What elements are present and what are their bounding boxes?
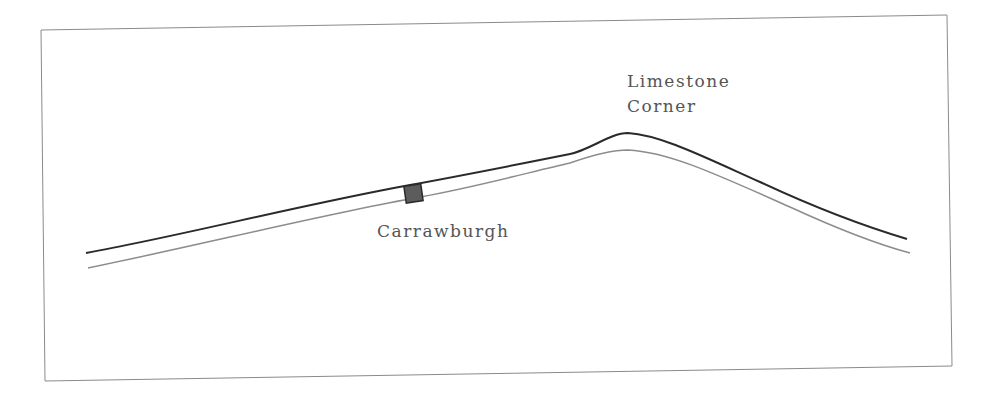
carrawburgh-fort-marker[interactable] bbox=[404, 184, 423, 203]
carrawburgh-label: Carrawburgh bbox=[377, 221, 509, 241]
map-canvas: Carrawburgh Limestone Corner bbox=[0, 0, 990, 393]
limestone-corner-label-line-2: Corner bbox=[627, 96, 697, 116]
limestone-corner-label-line-1: Limestone bbox=[627, 71, 730, 91]
map-frame bbox=[41, 15, 952, 381]
